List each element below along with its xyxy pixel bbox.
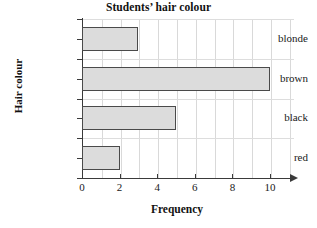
bar-black — [82, 106, 176, 130]
bar-chart-figure: Students’ hair colour Hair colour Freque… — [0, 0, 317, 228]
y-axis-title: Hair colour — [12, 41, 24, 131]
y-axis-tick — [77, 59, 83, 60]
x-axis-tick-label: 4 — [142, 181, 172, 193]
bar-red — [82, 146, 120, 170]
y-axis-category-label-blonde: blonde — [243, 32, 317, 44]
x-axis-tick — [270, 174, 271, 179]
x-axis-tick — [232, 174, 233, 179]
bar-brown — [82, 67, 270, 91]
y-axis-tick — [77, 99, 83, 100]
x-axis-tick — [120, 174, 121, 179]
x-axis-tick-label: 10 — [255, 181, 285, 193]
x-axis-tick-label: 6 — [180, 181, 210, 193]
x-axis-tick-label: 8 — [217, 181, 247, 193]
y-axis-tick — [77, 178, 83, 179]
gridline-horizontal — [83, 99, 294, 100]
gridline-horizontal — [83, 59, 294, 60]
gridline-horizontal — [83, 138, 294, 139]
x-axis-tick — [157, 174, 158, 179]
x-axis-title: Frequency — [82, 203, 272, 215]
x-axis-arrow-icon — [290, 174, 298, 182]
x-axis-line — [82, 178, 292, 179]
y-axis-category-label-red: red — [243, 151, 317, 163]
gridline-horizontal — [83, 19, 294, 20]
y-axis-tick — [77, 138, 83, 139]
x-axis-tick — [195, 174, 196, 179]
y-axis-category-label-black: black — [243, 111, 317, 123]
chart-title: Students’ hair colour — [0, 1, 317, 13]
y-axis-tick — [77, 19, 83, 20]
x-axis-tick-label: 2 — [105, 181, 135, 193]
x-axis-tick-label: 0 — [67, 181, 97, 193]
bar-blonde — [82, 27, 138, 51]
